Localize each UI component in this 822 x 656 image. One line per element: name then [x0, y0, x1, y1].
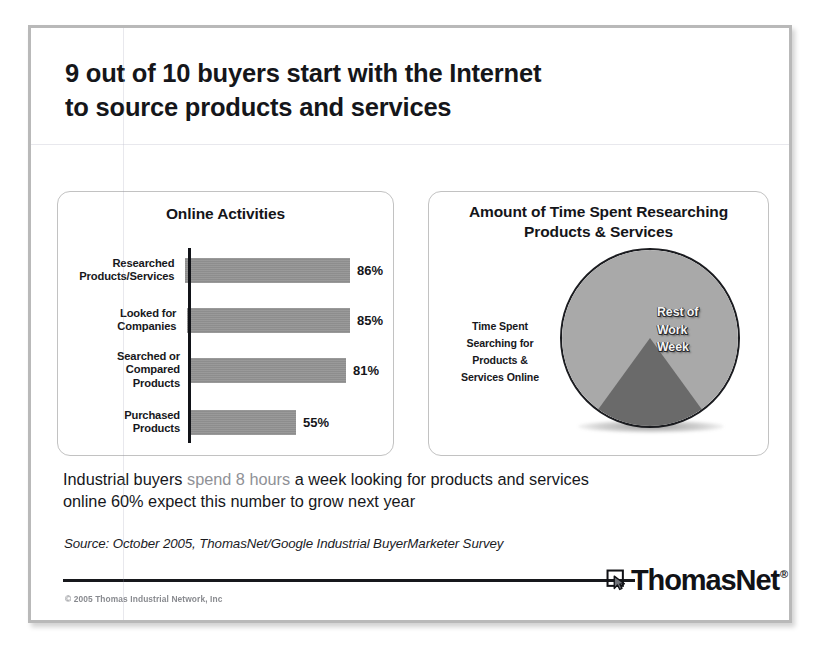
cursor-square-icon: [606, 569, 629, 592]
logo-wordmark: ThomasNet: [631, 566, 779, 595]
page-title: 9 out of 10 buyers start with the Intern…: [65, 57, 705, 124]
bar-track: 85%: [180, 298, 383, 342]
bar-value: 55%: [303, 415, 329, 430]
body-copy: Industrial buyers spend 8 hours a week l…: [63, 468, 683, 513]
bar-row: Looked for Companies 85%: [72, 298, 383, 342]
pie-chart-plot: Time Spent Searching for Products & Serv…: [429, 240, 768, 455]
source-note: Source: October 2005, ThomasNet/Google I…: [64, 536, 704, 551]
bar-row: Searched or Compared Products 81%: [72, 348, 383, 392]
pie-slice-label-searching: Time Spent Searching for Products & Serv…: [439, 318, 561, 387]
pie-chart: Rest of Work Week: [560, 248, 740, 428]
registered-mark: ®: [780, 568, 788, 580]
bar-chart-plot: Researched Products/Services 86% Looked …: [72, 242, 383, 447]
bar-value: 85%: [357, 313, 383, 328]
pie-slice-label-rest: Rest of Work Week: [657, 304, 698, 357]
bar-track: 55%: [184, 400, 383, 444]
online-activities-panel: Online Activities Researched Products/Se…: [57, 191, 394, 456]
slide-page: 9 out of 10 buyers start with the Intern…: [0, 0, 822, 656]
headline-line-1: 9 out of 10 buyers start with the Intern…: [65, 57, 705, 91]
pie-graphic: [560, 248, 740, 428]
bar-fill: [185, 258, 350, 283]
bar-fill: [191, 410, 297, 435]
bar-fill: [191, 358, 347, 383]
thomasnet-logo: ThomasNet ®: [606, 566, 788, 595]
bar-label: Searched or Compared Products: [72, 350, 184, 389]
bar-label: Looked for Companies: [72, 307, 180, 333]
body-copy-segment-c: a week looking for products and services: [290, 470, 589, 488]
bar-value: 81%: [353, 363, 379, 378]
bar-track: 86%: [178, 248, 383, 292]
bar-chart-title: Online Activities: [58, 204, 393, 224]
footer-divider: [63, 579, 635, 582]
copyright-text: © 2005 Thomas Industrial Network, Inc: [65, 594, 222, 604]
bar-row: Purchased Products 55%: [72, 400, 383, 444]
bar-label: Purchased Products: [72, 409, 184, 435]
pie-chart-title: Amount of Time Spent Researching Product…: [429, 202, 768, 242]
slide-frame: 9 out of 10 buyers start with the Intern…: [28, 25, 792, 623]
headline-line-2: to source products and services: [65, 91, 705, 125]
bar-value: 86%: [357, 263, 383, 278]
bar-chart-axis: [188, 248, 191, 443]
bar-label: Researched Products/Services: [72, 257, 178, 283]
body-copy-highlight: spend 8 hours: [187, 470, 290, 488]
body-copy-line-2: online 60% expect this number to grow ne…: [63, 490, 683, 512]
bar-row: Researched Products/Services 86%: [72, 248, 383, 292]
body-copy-segment-a: Industrial buyers: [63, 470, 187, 488]
bar-fill: [187, 308, 350, 333]
body-copy-line-1: Industrial buyers spend 8 hours a week l…: [63, 468, 683, 490]
time-spent-panel: Amount of Time Spent Researching Product…: [428, 191, 769, 456]
bar-track: 81%: [184, 348, 383, 392]
